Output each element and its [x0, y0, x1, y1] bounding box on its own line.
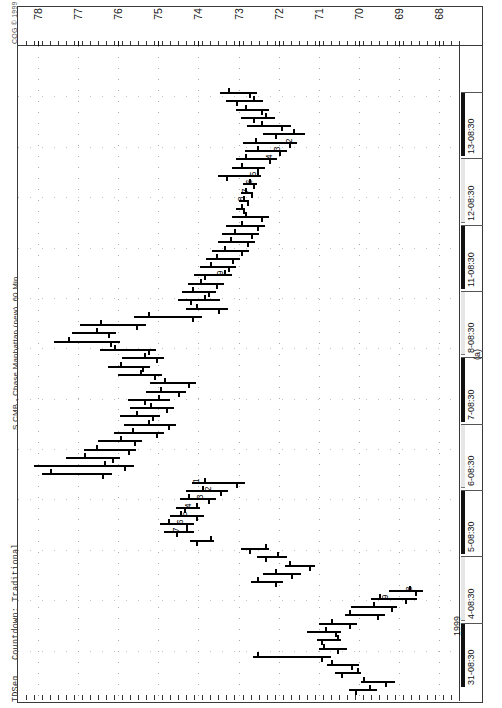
- ohlc-close-tick: [251, 193, 253, 198]
- ohlc-open-tick: [277, 552, 279, 557]
- ohlc-close-tick: [228, 267, 230, 272]
- ohlc-open-tick: [275, 569, 277, 574]
- price-tick-label: 72: [273, 2, 285, 26]
- ohlc-open-tick: [210, 536, 212, 541]
- price-tick-label: 69: [393, 2, 405, 26]
- ohlc-close-tick: [249, 549, 251, 554]
- ohlc-open-tick: [104, 461, 106, 466]
- price-tick-minor-bottom: [42, 695, 43, 700]
- ohlc-close-tick: [208, 499, 210, 504]
- ohlc-close-tick: [341, 673, 343, 678]
- price-tick-minor-bottom: [130, 695, 131, 700]
- ohlc-close-tick: [243, 209, 245, 214]
- price-tick-minor-bottom: [307, 695, 308, 700]
- td-sequential-count-label: 9: [380, 594, 390, 599]
- price-tick-minor-bottom: [114, 695, 115, 700]
- grid-line-vertical: [78, 46, 79, 701]
- time-tick-label: 4-08:30: [466, 588, 476, 619]
- price-tick-minor-bottom: [90, 695, 91, 700]
- ohlc-bar: [34, 465, 134, 467]
- price-tick-minor-bottom: [411, 695, 412, 700]
- grid-line-horizontal: [18, 499, 459, 500]
- price-tick-minor-bottom: [146, 695, 147, 700]
- ohlc-bar: [361, 681, 395, 683]
- ohlc-open-tick: [363, 677, 365, 682]
- ohlc-open-tick: [265, 113, 267, 118]
- year-label: 1999: [452, 616, 462, 636]
- ohlc-close-tick: [128, 450, 130, 455]
- price-tick-minor-bottom: [435, 695, 436, 700]
- price-tick-minor-bottom: [379, 695, 380, 700]
- ohlc-close-tick: [291, 574, 293, 579]
- ohlc-bar: [232, 167, 264, 169]
- ohlc-open-tick: [158, 395, 160, 400]
- ohlc-open-tick: [144, 353, 146, 358]
- price-tick-minor-bottom: [387, 695, 388, 700]
- ohlc-open-tick: [216, 254, 218, 259]
- ohlc-close-tick: [156, 358, 158, 363]
- time-axis-segment: [461, 490, 465, 554]
- ohlc-close-tick: [377, 615, 379, 620]
- ohlc-close-tick: [168, 425, 170, 430]
- price-tick-minor-bottom: [154, 695, 155, 700]
- td-sequential-count-label: 8: [404, 586, 414, 591]
- price-tick-label: 78: [32, 2, 44, 26]
- ohlc-close-tick: [110, 342, 112, 347]
- ohlc-close-tick: [190, 300, 192, 305]
- ohlc-close-tick: [216, 284, 218, 289]
- grid-line-horizontal: [18, 600, 459, 601]
- time-axis-segment: [461, 424, 465, 488]
- ohlc-open-tick: [255, 138, 257, 143]
- ohlc-bar: [212, 250, 248, 252]
- price-tick-label: 73: [233, 2, 245, 26]
- ohlc-bar: [218, 241, 254, 243]
- time-tick-label: 5-08:30: [466, 522, 476, 553]
- ohlc-open-tick: [50, 469, 52, 474]
- ohlc-bar: [251, 581, 283, 583]
- price-tick-minor-bottom: [170, 695, 171, 700]
- ohlc-bar: [222, 233, 258, 235]
- ohlc-bar: [257, 556, 287, 558]
- ohlc-open-tick: [120, 362, 122, 367]
- ohlc-close-tick: [385, 682, 387, 687]
- ohlc-open-tick: [293, 129, 295, 134]
- ohlc-open-tick: [234, 229, 236, 234]
- price-tick-minor-bottom: [26, 695, 27, 700]
- grid-line-horizontal: [18, 399, 459, 400]
- ohlc-bar: [182, 291, 216, 293]
- figure-caption: (a): [472, 349, 482, 360]
- price-tick-minor-bottom: [451, 695, 452, 700]
- td-sequential-count-label: 1: [192, 478, 202, 483]
- ohlc-open-tick: [325, 627, 327, 632]
- ohlc-bar: [188, 283, 224, 285]
- price-tick-minor-bottom: [395, 695, 396, 700]
- ohlc-close-tick: [309, 566, 311, 571]
- ohlc-open-tick: [160, 387, 162, 392]
- ohlc-close-tick: [391, 607, 393, 612]
- td-sequential-count-label: 2: [204, 487, 214, 492]
- ohlc-close-tick: [156, 433, 158, 438]
- ohlc-open-tick: [357, 668, 359, 673]
- time-axis-segment: [461, 291, 465, 355]
- grid-line-horizontal: [18, 147, 459, 148]
- price-tick-minor-bottom: [194, 695, 195, 700]
- price-tick-label: 68: [433, 2, 445, 26]
- price-tick-minor-bottom: [339, 695, 340, 700]
- td-sequential-count-label: 7: [240, 188, 250, 193]
- td-sequential-count-label: 4: [184, 503, 194, 508]
- td-sequential-count-label: 6: [176, 520, 186, 525]
- ohlc-open-tick: [241, 163, 243, 168]
- ohlc-close-tick: [176, 532, 178, 537]
- ohlc-open-tick: [230, 237, 232, 242]
- time-axis: 31-08:304-08:305-08:306-08:307-08:308-08…: [459, 46, 483, 701]
- grid-line-horizontal: [18, 651, 459, 652]
- td-sequential-count-label: 2: [284, 138, 294, 143]
- price-scale: [18, 7, 482, 46]
- ohlc-close-tick: [232, 259, 234, 264]
- ohlc-close-tick: [321, 657, 323, 662]
- grid-line-horizontal: [18, 348, 459, 349]
- price-tick-minor-bottom: [403, 695, 404, 700]
- grid-line-vertical: [359, 46, 360, 701]
- ohlc-close-tick: [136, 325, 138, 330]
- ohlc-open-tick: [96, 328, 98, 333]
